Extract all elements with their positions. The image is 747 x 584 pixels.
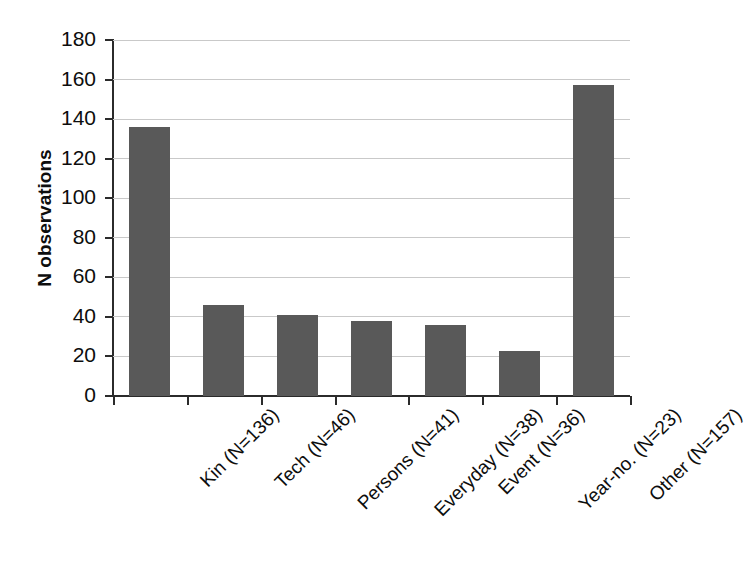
y-axis-tick [105, 395, 113, 397]
y-axis-tick [105, 237, 113, 239]
y-axis-tick-label: 100 [0, 185, 96, 209]
bar[interactable] [277, 315, 318, 396]
x-axis-tick [408, 396, 410, 405]
x-axis-tick [482, 396, 484, 405]
bar[interactable] [129, 127, 170, 396]
y-axis-tick [105, 79, 113, 81]
x-axis-tick [556, 396, 558, 405]
x-axis-tick [335, 396, 337, 405]
y-axis-tick-label: 160 [0, 67, 96, 91]
x-axis-tick-label: Kin (N=136) [196, 404, 284, 492]
bar[interactable] [425, 325, 466, 396]
x-axis-tick-label: Tech (N=46) [270, 404, 359, 493]
y-axis-tick-label: 180 [0, 27, 96, 51]
bar[interactable] [573, 85, 614, 396]
y-axis-tick [105, 118, 113, 120]
bar[interactable] [499, 351, 540, 396]
y-axis-tick [105, 39, 113, 41]
bar[interactable] [351, 321, 392, 396]
y-axis-tick-label: 80 [0, 225, 96, 249]
y-axis-tick-label: 140 [0, 106, 96, 130]
y-axis-tick [105, 276, 113, 278]
y-axis-tick [105, 158, 113, 160]
y-axis-tick-label: 40 [0, 304, 96, 328]
bars-group [113, 40, 630, 396]
y-axis-tick [105, 316, 113, 318]
x-axis-tick [187, 396, 189, 405]
y-axis-tick-label: 120 [0, 146, 96, 170]
x-axis-tick [630, 396, 632, 405]
x-axis-tick [113, 396, 115, 405]
bar[interactable] [203, 305, 244, 396]
y-axis-tick-label: 0 [0, 383, 96, 407]
x-axis-tick [261, 396, 263, 405]
y-axis-tick [105, 355, 113, 357]
y-axis-tick [105, 197, 113, 199]
y-axis-tick-label: 60 [0, 264, 96, 288]
x-axis-tick-label: Year-no. (N=23) [575, 404, 686, 515]
y-axis-tick-label: 20 [0, 343, 96, 367]
